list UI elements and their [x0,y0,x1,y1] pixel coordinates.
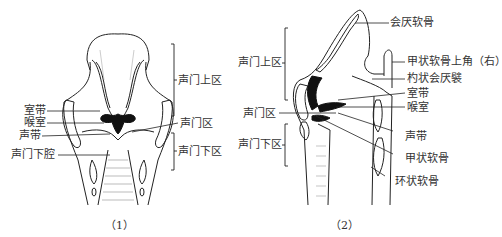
fig1-label-vocal-fold: 声带 [19,130,41,142]
fig1-label-glottic: 声门区 [180,118,213,130]
fig2-label-supraglottic: 声门上区 [238,57,282,69]
fig1-label-laryngeal-ventricle: 喉室 [24,117,46,129]
fig2-label-ventricular-fold: 室带 [407,88,429,100]
fig2-label-aryepiglottic-fold: 杓状会厌襞 [407,73,462,85]
fig2-label-epiglottic-cartilage: 会厌软骨 [390,17,434,29]
figure2-drawing [293,10,392,205]
fig1-label-supraglottic: 声门上区 [178,75,222,87]
fig2-label-cricoid-cartilage: 环状软骨 [395,176,439,188]
fig2-label-glottic: 声门区 [243,108,276,120]
fig1-label-infraglottic-cavity: 声门下腔 [11,149,55,161]
fig1-label-subglottic: 声门下区 [178,146,222,158]
fig2-label-vocal-fold: 声带 [405,131,427,143]
fig2-caption: （2） [330,216,359,232]
fig2-label-thyroid-superior-horn: 甲状软骨上角（右） [407,56,502,68]
fig2-label-laryngeal-ventricle: 喉室 [407,102,429,114]
fig1-caption: （1） [105,216,134,232]
fig2-label-thyroid-cartilage: 甲状软骨 [405,153,449,165]
fig2-label-subglottic: 声门下区 [238,139,282,151]
